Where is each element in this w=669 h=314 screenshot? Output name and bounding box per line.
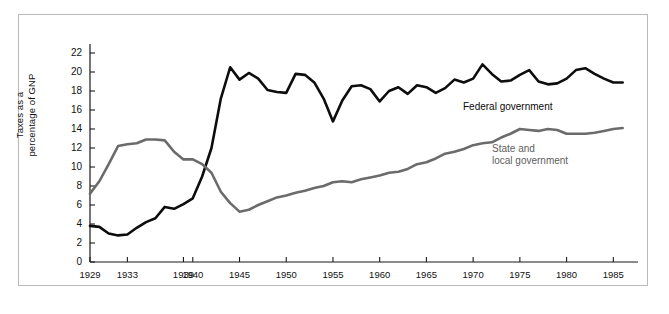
- y-tick-label: 16: [60, 104, 82, 115]
- x-tick-label: 1940: [173, 269, 213, 280]
- y-tick-label: 8: [60, 180, 82, 191]
- x-tick-label: 1955: [313, 269, 353, 280]
- series-label-federal: Federal government: [463, 101, 553, 113]
- x-tick-label: 1945: [220, 269, 260, 280]
- y-tick-label: 4: [60, 218, 82, 229]
- y-tick-label: 22: [60, 47, 82, 58]
- x-tick-label: 1960: [360, 269, 400, 280]
- x-tick-label: 1965: [406, 269, 446, 280]
- chart-canvas: [0, 0, 669, 314]
- y-tick-label: 2: [60, 237, 82, 248]
- x-tick-label: 1975: [500, 269, 540, 280]
- x-tick-label: 1933: [107, 269, 147, 280]
- y-tick-label: 18: [60, 85, 82, 96]
- y-tick-label: 14: [60, 123, 82, 134]
- x-tick-label: 1950: [266, 269, 306, 280]
- y-tick-label: 10: [60, 161, 82, 172]
- plot-area: Taxes as a percentage of GNP 02468101214…: [0, 0, 669, 314]
- y-tick-label: 6: [60, 199, 82, 210]
- x-tick-label: 1980: [547, 269, 587, 280]
- y-tick-label: 0: [60, 256, 82, 267]
- x-tick-label: 1985: [593, 269, 633, 280]
- x-tick-label: 1929: [70, 269, 110, 280]
- y-tick-label: 20: [60, 66, 82, 77]
- chart-screenshot: Taxes as a percentage of GNP 02468101214…: [0, 0, 669, 314]
- x-tick-label: 1970: [453, 269, 493, 280]
- series-label-state-local: State and local government: [492, 143, 568, 167]
- series-line-state-local: [90, 128, 623, 212]
- y-tick-label: 12: [60, 142, 82, 153]
